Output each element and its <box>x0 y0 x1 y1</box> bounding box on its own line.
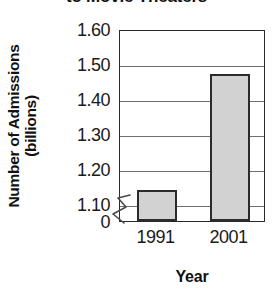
y-axis-title-line2: (billions) <box>22 44 39 207</box>
bar-1991 <box>137 190 177 221</box>
x-tick-label: 2001 <box>192 228 265 246</box>
y-axis-title: Number of Admissions (billions) <box>0 28 44 224</box>
gridline <box>120 66 264 67</box>
y-axis-tick-labels: 1.601.501.401.301.201.100 <box>48 0 110 305</box>
y-tick-label: 1.20 <box>48 161 110 179</box>
y-axis-title-text: Number of Admissions (billions) <box>5 44 40 207</box>
chart-title: to Movie Theaters <box>0 0 273 7</box>
chart-screenshot: to Movie Theaters Number of Admissions (… <box>0 0 273 305</box>
y-axis-title-line1: Number of Admissions <box>5 44 22 207</box>
axis-break-icon <box>106 192 132 226</box>
bar-2001 <box>210 74 250 221</box>
y-tick-label: 1.50 <box>48 56 110 74</box>
y-tick-label: 1.10 <box>48 196 110 214</box>
x-tick-label: 1991 <box>119 228 192 246</box>
x-axis-tick-labels: 19912001 <box>119 228 265 254</box>
y-tick-label: 1.30 <box>48 126 110 144</box>
y-tick-label: 1.60 <box>48 21 110 39</box>
y-tick-label: 0 <box>48 213 110 231</box>
plot-area <box>119 30 265 222</box>
x-axis-title: Year <box>119 268 265 286</box>
y-tick-label: 1.40 <box>48 91 110 109</box>
